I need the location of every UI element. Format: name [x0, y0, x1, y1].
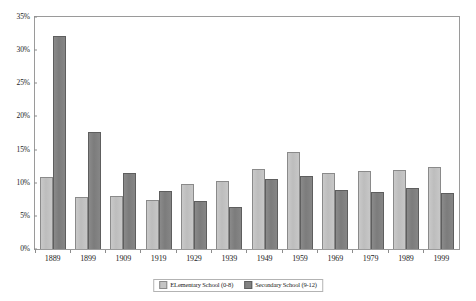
x-axis-labels: 1889189919091919192919391949195919691979… — [35, 254, 459, 263]
plot-area — [35, 17, 459, 249]
y-axis-tick-label: 10% — [17, 177, 30, 186]
bar-elementary-1989 — [393, 170, 406, 249]
bar-secondary-1999 — [441, 193, 454, 249]
y-axis-tick-label: 20% — [17, 111, 30, 120]
bar-elementary-1949 — [252, 169, 265, 249]
x-axis-tick-label: 1889 — [35, 254, 70, 263]
bar-group — [353, 17, 388, 249]
y-axis-tick-label: 5% — [20, 210, 30, 219]
bar-group — [212, 17, 247, 249]
bar-group — [318, 17, 353, 249]
bar-elementary-1929 — [181, 184, 194, 249]
bar-group — [388, 17, 423, 249]
bar-group — [176, 17, 211, 249]
legend-item: Secondary School (9-12) — [244, 281, 317, 289]
y-axis-tick-label: 30% — [17, 45, 30, 54]
bar-secondary-1919 — [159, 191, 172, 249]
bar-secondary-1889 — [53, 36, 66, 249]
y-axis-tick-label: 25% — [17, 78, 30, 87]
bar-elementary-1919 — [146, 200, 159, 249]
bar-group — [106, 17, 141, 249]
bar-secondary-1949 — [265, 179, 278, 249]
legend-swatch-icon — [159, 281, 167, 289]
y-axis-tick-label: 0% — [20, 244, 30, 253]
legend-swatch-icon — [244, 281, 252, 289]
bar-group — [282, 17, 317, 249]
legend-item: ELementary School (0-8) — [159, 281, 233, 289]
bar-group — [424, 17, 459, 249]
bar-elementary-1969 — [322, 173, 335, 249]
x-axis-tick-label: 1989 — [388, 254, 423, 263]
x-axis-tick-label: 1959 — [282, 254, 317, 263]
bar-secondary-1969 — [335, 190, 348, 249]
bar-secondary-1979 — [371, 192, 384, 249]
bar-elementary-1939 — [216, 181, 229, 249]
x-axis-tick-label: 1949 — [247, 254, 282, 263]
bar-secondary-1989 — [406, 188, 419, 249]
x-axis-tick-label: 1909 — [106, 254, 141, 263]
bar-elementary-1979 — [358, 171, 371, 249]
bar-elementary-1999 — [428, 167, 441, 249]
chart-legend: ELementary School (0-8)Secondary School … — [153, 279, 323, 292]
bar-secondary-1959 — [300, 176, 313, 249]
bar-elementary-1899 — [75, 197, 88, 249]
x-axis-tick-label: 1999 — [424, 254, 459, 263]
x-axis-tick-label: 1919 — [141, 254, 176, 263]
bar-group — [141, 17, 176, 249]
bar-secondary-1899 — [88, 132, 101, 249]
bar-group — [247, 17, 282, 249]
x-axis-tick-label: 1939 — [212, 254, 247, 263]
y-axis-tick-label: 35% — [17, 12, 30, 21]
x-axis-tick-label: 1969 — [318, 254, 353, 263]
bar-elementary-1909 — [110, 196, 123, 249]
y-axis-tick-label: 15% — [17, 144, 30, 153]
legend-item-label: Secondary School (9-12) — [255, 281, 317, 289]
bar-secondary-1939 — [229, 207, 242, 249]
bar-elementary-1959 — [287, 152, 300, 249]
legend-item-label: ELementary School (0-8) — [170, 281, 233, 289]
y-axis: 0%5%10%15%20%25%30%35% — [0, 16, 34, 250]
x-axis-tick-label: 1979 — [353, 254, 388, 263]
x-axis-tick-label: 1899 — [70, 254, 105, 263]
bar-group — [70, 17, 105, 249]
bar-secondary-1929 — [194, 201, 207, 249]
bar-chart: 0%5%10%15%20%25%30%35% 18891899190919191… — [0, 0, 476, 301]
x-axis: 1889189919091919192919391949195919691979… — [34, 250, 460, 270]
bar-secondary-1909 — [123, 173, 136, 249]
bar-elementary-1889 — [40, 177, 53, 249]
x-axis-tick-label: 1929 — [176, 254, 211, 263]
bar-group — [35, 17, 70, 249]
